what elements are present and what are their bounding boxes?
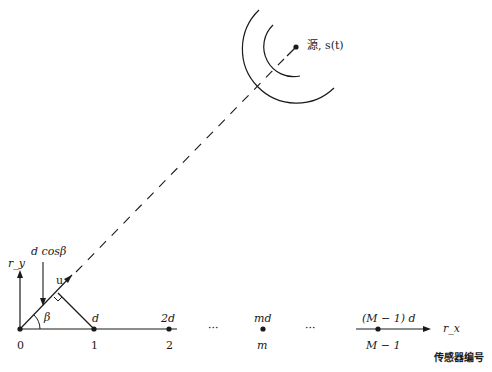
outer-wavefront-arc [242, 10, 334, 103]
sensor-dot-M-1 [375, 326, 380, 331]
angle-arc [34, 315, 40, 329]
sensor-position-m: md [254, 313, 271, 324]
sensor-position-2: 2d [161, 313, 175, 324]
sensor-dot-1 [91, 326, 96, 331]
x-axis-label: r_x [443, 323, 460, 334]
sensor-position-1: d [92, 313, 99, 324]
source-label: 源, s(t) [307, 40, 344, 51]
perpendicular-line [58, 293, 94, 329]
sensor-position-M-1: (M − 1) d [362, 313, 416, 324]
array-geometry-figure [0, 0, 492, 372]
propagation-direction-line [76, 59, 284, 272]
right-angle-marker [54, 293, 62, 301]
angle-label: β [44, 312, 50, 323]
y-axis-label: r_y [8, 258, 25, 269]
sensor-index-1: 1 [91, 340, 98, 351]
sensor-axis-caption: 传感器编号 [434, 353, 484, 363]
sensor-index-M-1: M − 1 [366, 340, 400, 351]
sensor-index-m: m [257, 340, 267, 351]
projection-label: d cosβ [31, 246, 66, 257]
ellipsis-2: ··· [305, 323, 316, 334]
ellipsis-1: ··· [208, 323, 219, 334]
sensor-dot-2 [166, 326, 171, 331]
unit-vector-label: u [56, 275, 63, 286]
sensor-index-2: 2 [166, 340, 173, 351]
inner-wavefront-arc [264, 25, 300, 77]
sensor-dot-0 [17, 326, 22, 331]
sensor-dot-m [260, 326, 265, 331]
sensor-index-0: 0 [17, 340, 24, 351]
